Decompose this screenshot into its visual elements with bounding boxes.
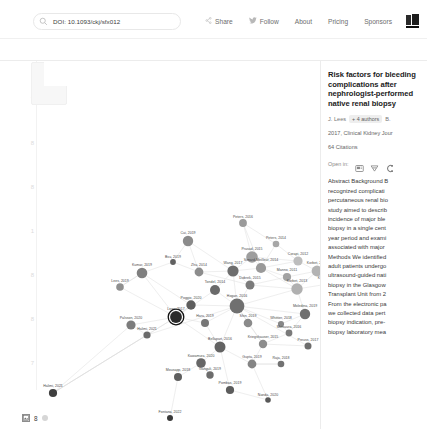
paper-detail-sidebar[interactable]: Risk factors for bleeding complications …	[320, 60, 427, 429]
abstract-line: we collected data pert	[328, 309, 421, 318]
share-icon	[205, 17, 212, 25]
image-icon[interactable]	[22, 414, 30, 422]
paper-venue: 2017, Clinical Kidney Jour	[328, 130, 421, 136]
semantic-scholar-icon[interactable]	[355, 159, 364, 168]
abstract-line: associated with major	[328, 243, 421, 252]
graph-node[interactable]	[246, 281, 255, 290]
graph-node[interactable]	[174, 373, 182, 381]
graph-node-label: Nanda, 2020	[258, 393, 278, 397]
graph-node-label: Pombas, 2019	[219, 381, 242, 385]
graph-node-label: Mutsuura, 2016	[277, 325, 302, 329]
graph-node-label: Halimi, 2021	[137, 327, 157, 331]
graph-node[interactable]	[278, 361, 285, 368]
nav-share-button[interactable]: Share	[197, 13, 241, 29]
abstract-line: recognized complicati	[328, 187, 421, 196]
graph-node-label: Lees, 2017	[167, 307, 185, 311]
graph-node[interactable]	[195, 268, 204, 277]
search-value: DOI: 10.1093/ckj/sfx012	[53, 18, 120, 25]
abstract-line: percutaneous renal bio	[328, 196, 421, 205]
graph-node[interactable]	[215, 342, 226, 353]
abstract-line: incidence of major ble	[328, 215, 421, 224]
logo-shape-base	[406, 26, 419, 29]
app-root: DOI: 10.1093/ckj/sfx012 Share	[0, 0, 427, 429]
connected-papers-icon[interactable]	[385, 159, 394, 168]
graph-node[interactable]	[286, 330, 293, 337]
graph-node[interactable]	[226, 386, 234, 394]
graph-node-label: Corapi, 2012	[288, 252, 308, 256]
graph-node[interactable]	[273, 241, 280, 248]
graph-node-label: Zhu, 2014	[191, 263, 207, 267]
graph-node[interactable]	[170, 259, 176, 265]
graph-node-label: Kawamura, 2020	[188, 354, 215, 358]
nav-about-link[interactable]: About	[287, 13, 320, 29]
nav-share-label: Share	[215, 18, 233, 25]
graph-edge	[120, 287, 176, 317]
graph-node-label: Whittier, 2018	[270, 316, 292, 320]
graph-node[interactable]	[201, 319, 209, 327]
search-icon	[39, 17, 48, 26]
scite-icon[interactable]	[370, 159, 379, 168]
last-author: B.	[385, 116, 390, 122]
graph-node[interactable]	[305, 343, 312, 350]
graph-node-label: Manno, 2011	[277, 268, 297, 272]
abstract-line: Methods We identified	[328, 253, 421, 262]
graph-node[interactable]	[167, 415, 173, 421]
graph-node[interactable]	[206, 371, 213, 378]
graph-node-label: Peters, 2014	[266, 236, 286, 240]
sub-bar	[0, 38, 427, 61]
abstract-line: ultrasound-guided nati	[328, 271, 421, 280]
graph-node[interactable]	[210, 285, 220, 295]
graph-node-label: Tondel, 2014	[205, 280, 225, 284]
graph-edge	[53, 335, 147, 393]
graph-node-label: Kriegshauser, 2015	[248, 335, 279, 339]
abstract-line: biopsy in a single cent	[328, 224, 421, 233]
graph-node[interactable]	[170, 311, 182, 323]
footer-status: 8	[22, 414, 48, 422]
graph-node[interactable]	[300, 309, 310, 319]
graph-node-label: Preuss, 2017	[298, 338, 319, 342]
graph-node[interactable]	[137, 268, 148, 279]
graph-node[interactable]	[244, 319, 253, 328]
graph-node[interactable]	[293, 256, 302, 265]
nav-sponsors-link[interactable]: Sponsors	[356, 13, 400, 29]
graph-node[interactable]	[248, 360, 257, 369]
search-input[interactable]: DOI: 10.1093/ckj/sfx012	[33, 13, 181, 30]
graph-node-label: Hara, 2019	[196, 314, 214, 318]
abstract-line: Transplant Unit from 2	[328, 290, 421, 299]
graph-node[interactable]	[143, 331, 150, 338]
graph-edge	[250, 285, 297, 289]
graph-node[interactable]	[239, 219, 247, 227]
graph-node[interactable]	[256, 263, 266, 273]
graph-node-label: Wang, 2017	[224, 261, 243, 265]
graph-node-label: Peters, 2016	[233, 215, 253, 219]
graph-node-label: Halimi, 2021	[43, 384, 63, 388]
nav-follow-button[interactable]: Follow	[241, 13, 287, 29]
graph-node[interactable]	[291, 283, 302, 294]
graph-node[interactable]	[227, 265, 238, 276]
graph-node[interactable]	[183, 236, 193, 246]
graph-edge	[53, 325, 131, 393]
nav-about-label: About	[295, 18, 312, 25]
graph-node-label: Bsu, 2019	[165, 255, 181, 259]
book-logo-icon[interactable]	[406, 14, 419, 28]
graph-node[interactable]	[126, 320, 135, 329]
abstract-line: From the electronic pa	[328, 300, 421, 309]
first-author: J. Lees	[328, 116, 346, 122]
graph-node[interactable]	[186, 300, 195, 309]
graph-node[interactable]	[230, 299, 245, 314]
graph-node[interactable]	[265, 397, 271, 403]
graph-node-label: Bellapart, 2016	[208, 337, 232, 341]
open-in-row: Open in:	[328, 159, 421, 168]
graph-node-label: Palsson, 2020	[120, 316, 142, 320]
open-in-label: Open in:	[328, 161, 348, 167]
graph-edge	[142, 273, 191, 305]
more-authors-chip[interactable]: + 4 authors	[349, 115, 382, 123]
graph-node[interactable]	[49, 389, 57, 397]
graph-node-label: Prasad, 2015	[241, 247, 262, 251]
top-nav: Share Follow About Pricing Sponsors	[197, 13, 419, 29]
nav-pricing-link[interactable]: Pricing	[320, 13, 356, 29]
nav-pricing-label: Pricing	[328, 18, 348, 25]
graph-node[interactable]	[116, 283, 124, 291]
paper-abstract: Abstract Background Brecognized complica…	[328, 177, 421, 337]
graph-node[interactable]	[259, 340, 267, 348]
